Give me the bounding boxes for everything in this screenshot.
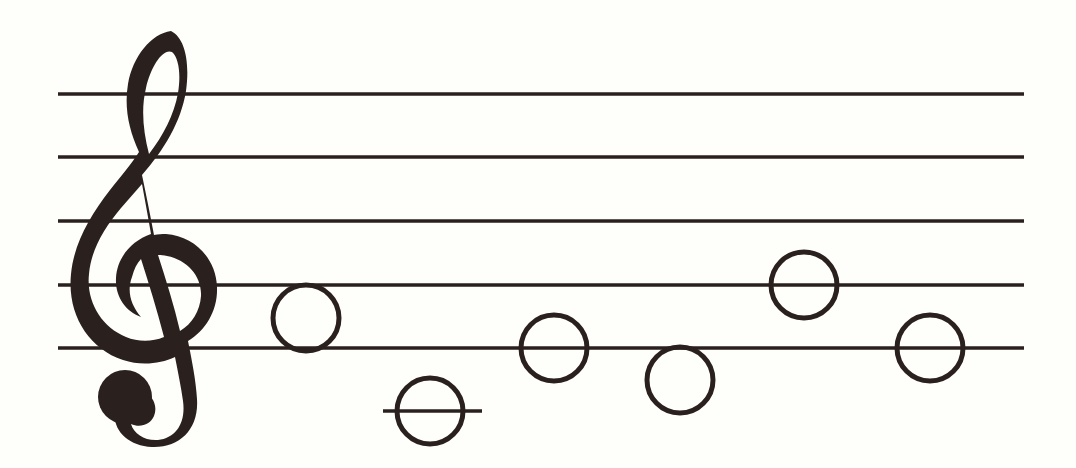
notation-canvas (0, 0, 1076, 468)
note-4[interactable] (647, 347, 713, 413)
music-notation-sheet (0, 0, 1076, 468)
treble-clef-dot (98, 370, 152, 424)
note-1[interactable] (273, 285, 339, 351)
